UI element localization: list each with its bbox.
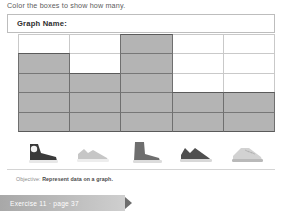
filled-box[interactable]	[223, 92, 275, 111]
filled-box[interactable]	[120, 73, 172, 92]
graph-name-label: Graph Name:	[17, 19, 67, 28]
dark-low-sneaker-icon	[172, 134, 223, 166]
instruction-text: Color the boxes to show how many.	[7, 1, 125, 10]
shoe-category-row	[18, 134, 275, 166]
bar-graph-grid	[18, 34, 275, 132]
empty-box[interactable]	[224, 53, 274, 72]
dress-shoe-icon	[224, 134, 275, 166]
worksheet-panel: Graph Name:	[7, 14, 275, 166]
light-low-sneaker-icon	[69, 134, 120, 166]
objective-text: Represent data on a graph.	[42, 176, 113, 182]
bar-column	[70, 34, 121, 132]
empty-box[interactable]	[224, 73, 274, 92]
filled-box[interactable]	[172, 92, 224, 111]
empty-box[interactable]	[224, 34, 274, 53]
filled-box[interactable]	[18, 73, 70, 92]
high-top-sneaker-icon	[18, 134, 69, 166]
exercise-banner[interactable]: Exercise 11 · page 37	[0, 195, 125, 211]
empty-box[interactable]	[19, 34, 69, 53]
filled-box[interactable]	[69, 73, 121, 92]
objective-line: Objective: Represent data on a graph.	[16, 176, 113, 182]
empty-box[interactable]	[173, 34, 223, 53]
footer-divider	[7, 169, 275, 170]
ankle-boot-icon	[121, 134, 172, 166]
filled-box[interactable]	[172, 112, 224, 132]
filled-box[interactable]	[120, 53, 172, 72]
empty-box[interactable]	[70, 53, 120, 72]
filled-box[interactable]	[69, 112, 121, 132]
objective-prefix: Objective:	[16, 176, 41, 182]
empty-box[interactable]	[70, 34, 120, 53]
filled-box[interactable]	[18, 53, 70, 72]
bar-column	[121, 34, 172, 132]
graph-name-box[interactable]: Graph Name:	[7, 14, 275, 33]
bar-column	[224, 34, 275, 132]
empty-box[interactable]	[173, 53, 223, 72]
filled-box[interactable]	[120, 112, 172, 132]
empty-box[interactable]	[173, 73, 223, 92]
filled-box[interactable]	[223, 112, 275, 132]
banner-arrow-icon	[125, 197, 132, 209]
filled-box[interactable]	[120, 92, 172, 111]
filled-box[interactable]	[18, 92, 70, 111]
exercise-label: Exercise 11 · page 37	[10, 200, 79, 207]
filled-box[interactable]	[120, 34, 172, 53]
filled-box[interactable]	[18, 112, 70, 132]
bar-column	[18, 34, 70, 132]
filled-box[interactable]	[69, 92, 121, 111]
bar-column	[173, 34, 224, 132]
